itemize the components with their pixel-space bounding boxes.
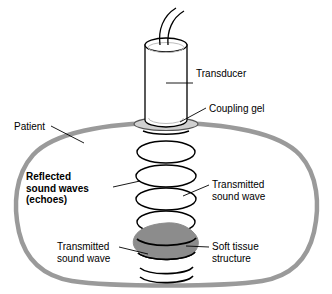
label-transducer: Transducer [196,68,246,80]
wave-arc-4 [136,188,196,210]
leader-reflected [113,181,140,187]
label-patient: Patient [14,121,45,133]
wave-arc-8 [140,267,193,274]
label-transmitted-sound-wave-right: Transmitted sound wave [212,179,265,202]
wave-arc-3 [136,165,196,187]
wave-arc-9 [140,276,193,283]
label-soft-tissue-structure: Soft tissue structure [212,241,259,264]
label-transmitted-sound-wave-left: Transmitted sound wave [57,241,110,264]
ultrasound-diagram: Transducer Coupling gel Patient Reflecte… [0,0,332,294]
transducer-cylinder [145,38,187,127]
wave-arc-1 [143,131,189,134]
label-reflected-sound-waves: Reflected sound waves (echoes) [26,171,89,206]
label-coupling-gel: Coupling gel [209,103,265,115]
diagram-canvas [0,0,332,294]
wave-arc-2 [137,141,195,163]
